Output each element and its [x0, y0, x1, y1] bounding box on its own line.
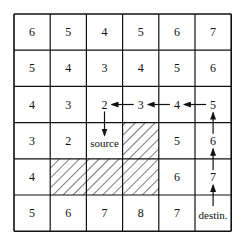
cell-value: 5: [174, 61, 180, 75]
cell-value: 5: [29, 61, 35, 75]
cell-value: 3: [29, 134, 35, 148]
obstacle-cell: [123, 123, 159, 159]
obstacle-cell: [50, 159, 86, 195]
cell-value: 7: [174, 206, 180, 220]
cell-value: 2: [65, 134, 71, 148]
cell-value: 4: [138, 61, 144, 75]
destination-label: destin.: [199, 209, 228, 221]
cell-value: 2: [102, 98, 108, 112]
cell-value: 7: [102, 206, 108, 220]
cell-value: 6: [29, 25, 35, 39]
cell-value: 3: [138, 98, 144, 112]
cell-value: 5: [65, 25, 71, 39]
cell-value: 4: [102, 25, 108, 39]
source-label: source: [90, 137, 119, 149]
maze-routing-grid: 65456754345643234532source5646756787dest…: [0, 0, 243, 237]
cell-value: 6: [174, 25, 180, 39]
cell-value: 7: [210, 170, 216, 184]
cell-value: 7: [210, 25, 216, 39]
grid-lines: [14, 14, 231, 231]
cell-value: 6: [65, 206, 71, 220]
cell-value: 3: [102, 61, 108, 75]
cell-value: 6: [210, 134, 216, 148]
cell-value: 4: [29, 170, 35, 184]
cell-value: 5: [174, 134, 180, 148]
cell-value: 5: [138, 25, 144, 39]
cell-value: 4: [65, 61, 71, 75]
cell-value: 5: [29, 206, 35, 220]
cell-value: 6: [210, 61, 216, 75]
cell-value: 8: [138, 206, 144, 220]
cell-value: 5: [210, 98, 216, 112]
obstacle-cell: [86, 159, 122, 195]
cell-value: 3: [65, 98, 71, 112]
cell-value: 4: [174, 98, 180, 112]
cell-value: 6: [174, 170, 180, 184]
obstacle-cell: [123, 159, 159, 195]
cell-value: 4: [29, 98, 35, 112]
